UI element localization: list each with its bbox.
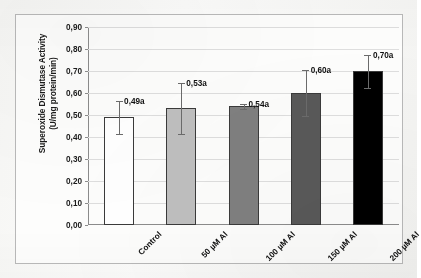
category-label: 200 µM Al [388, 230, 421, 263]
gridline [88, 49, 399, 50]
y-axis-title-line-1: Superoxide Dismutase Activity [37, 0, 48, 189]
error-bar [306, 70, 307, 116]
y-axis-line [88, 27, 89, 225]
bar-value-label: 0,70a [373, 51, 394, 60]
error-bar-cap-bottom [364, 88, 371, 89]
bar-value-label: 0,53a [186, 79, 207, 88]
error-bar [119, 101, 120, 134]
bar-value-label: 0,49a [124, 97, 145, 106]
y-tick-label: 0,60 [66, 89, 82, 98]
error-bar-cap-top [364, 55, 371, 56]
error-bar-cap-top [116, 101, 123, 102]
y-tick-mark [85, 203, 88, 204]
error-bar-cap-bottom [178, 134, 185, 135]
y-tick-mark [85, 181, 88, 182]
error-bar-cap-top [178, 83, 185, 84]
category-label: 100 µM Al [264, 230, 297, 263]
y-tick-mark [85, 49, 88, 50]
category-label: Control [137, 230, 164, 257]
y-tick-label: 0,20 [66, 177, 82, 186]
bar-value-label: 0,54a [249, 100, 270, 109]
gridline [88, 27, 399, 28]
error-bar-cap-bottom [116, 134, 123, 135]
y-tick-label: 0,50 [66, 111, 82, 120]
bar-value-label: 0,60a [311, 66, 332, 75]
y-tick-label: 0,80 [66, 45, 82, 54]
y-tick-label: 0,10 [66, 199, 82, 208]
y-tick-label: 0,90 [66, 23, 82, 32]
y-tick-mark [85, 159, 88, 160]
error-bar [368, 55, 369, 88]
y-axis-title-line-2: (U/mg protein/min) [47, 0, 58, 189]
error-bar-cap-top [240, 104, 247, 105]
bar [353, 71, 383, 225]
plot-area: 0,000,100,200,300,400,500,600,700,800,90… [88, 27, 399, 225]
y-tick-mark [85, 225, 88, 226]
y-tick-label: 0,40 [66, 133, 82, 142]
y-tick-label: 0,30 [66, 155, 82, 164]
chart-frame: Superoxide Dismutase Activity (U/mg prot… [15, 14, 403, 264]
error-bar-cap-top [302, 70, 309, 71]
error-bar-cap-bottom [240, 109, 247, 110]
category-label: 50 µM Al [200, 230, 230, 260]
error-bar [181, 83, 182, 134]
y-tick-label: 0,70 [66, 67, 82, 76]
y-tick-mark [85, 27, 88, 28]
error-bar-cap-bottom [302, 116, 309, 117]
y-tick-label: 0,00 [66, 221, 82, 230]
category-label: 150 µM Al [326, 230, 359, 263]
bar [229, 106, 259, 225]
y-tick-mark [85, 137, 88, 138]
y-tick-mark [85, 71, 88, 72]
y-axis-title: Superoxide Dismutase Activity (U/mg prot… [37, 0, 58, 189]
y-tick-mark [85, 93, 88, 94]
y-tick-mark [85, 115, 88, 116]
